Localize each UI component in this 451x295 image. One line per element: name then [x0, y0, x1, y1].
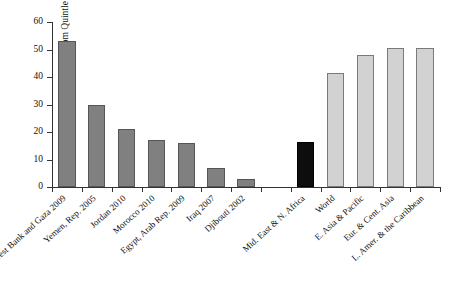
- x-tick: [321, 187, 322, 192]
- y-tick: 50: [47, 50, 52, 51]
- plot-area: Percentage Covered in Bottom Quintle 010…: [52, 22, 440, 187]
- y-tick-label: 0: [38, 180, 43, 193]
- y-tick: 40: [47, 77, 52, 78]
- y-tick: 60: [47, 22, 52, 23]
- x-tick: [440, 187, 441, 192]
- x-tick: [142, 187, 143, 192]
- y-tick-label: 30: [34, 98, 44, 111]
- bar-djibouti-2002: [237, 179, 254, 187]
- x-label: Mid. East & N. Africa: [240, 193, 307, 255]
- x-tick: [52, 187, 53, 192]
- x-tick: [291, 187, 292, 192]
- y-tick: 20: [47, 132, 52, 133]
- bar-jordan-2010: [118, 129, 135, 187]
- x-label: Yemen, Rep. 2005: [41, 193, 98, 246]
- y-tick-label: 50: [34, 43, 44, 56]
- x-tick: [231, 187, 232, 192]
- bar-morocco-2010: [148, 140, 165, 187]
- x-tick: [350, 187, 351, 192]
- y-tick: 30: [47, 105, 52, 106]
- chart-figure: Percentage Covered in Bottom Quintle 010…: [0, 0, 451, 295]
- y-tick: 10: [47, 160, 52, 161]
- x-tick: [261, 187, 262, 192]
- y-tick-label: 20: [34, 125, 44, 138]
- y-tick-label: 10: [34, 153, 44, 166]
- bar-yemen-rep-2005: [88, 105, 105, 188]
- bar-e-asia-pacific: [357, 55, 374, 187]
- x-tick: [410, 187, 411, 192]
- bar-l-amer-the-caribbean: [416, 48, 433, 187]
- x-tick: [380, 187, 381, 192]
- x-tick: [82, 187, 83, 192]
- bar-world: [327, 73, 344, 187]
- bar-iraq-2007: [207, 168, 224, 187]
- x-tick: [171, 187, 172, 192]
- bar-egypt-arab-rep-2009: [178, 143, 195, 187]
- y-tick-label: 60: [34, 15, 44, 28]
- x-tick: [112, 187, 113, 192]
- x-axis-spine: [52, 187, 441, 188]
- bar-eur-cent-asia: [387, 48, 404, 187]
- bar-mid-east-n-africa: [297, 142, 314, 187]
- x-label: World: [313, 193, 337, 216]
- bar-west-bank-and-gaza-2009: [58, 41, 75, 187]
- y-tick-label: 40: [34, 70, 44, 83]
- x-tick: [201, 187, 202, 192]
